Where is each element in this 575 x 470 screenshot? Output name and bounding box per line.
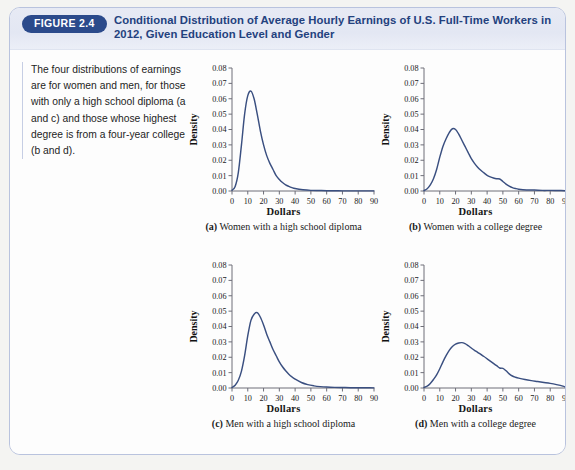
density-curve-a — [232, 91, 374, 191]
svg-text:50: 50 — [307, 197, 315, 206]
svg-text:0.08: 0.08 — [404, 64, 418, 73]
svg-text:10: 10 — [244, 394, 252, 403]
x-axis-title-d: Dollars — [378, 403, 566, 414]
svg-text:40: 40 — [483, 197, 491, 206]
svg-text:0.08: 0.08 — [212, 261, 226, 270]
panel-d: 0.000.010.020.030.040.050.060.070.080102… — [378, 253, 566, 449]
density-curve-d — [424, 343, 566, 388]
x-axis-title-b: Dollars — [378, 206, 566, 217]
svg-text:0: 0 — [422, 197, 426, 206]
panel-caption-d: (d) Men with a college degree — [378, 418, 566, 429]
density-curve-chart-b: 0.000.010.020.030.040.050.060.070.080102… — [378, 56, 566, 216]
svg-text:60: 60 — [515, 394, 523, 403]
panel-c: 0.000.010.020.030.040.050.060.070.080102… — [186, 253, 381, 449]
svg-text:0.02: 0.02 — [212, 156, 226, 165]
svg-text:50: 50 — [499, 197, 507, 206]
svg-text:0.04: 0.04 — [212, 125, 226, 134]
svg-text:0.07: 0.07 — [212, 79, 226, 88]
svg-text:0.07: 0.07 — [404, 276, 418, 285]
panel-title-d: Men with a college degree — [430, 418, 536, 429]
panel-b: 0.000.010.020.030.040.050.060.070.080102… — [378, 56, 566, 252]
svg-text:0.03: 0.03 — [404, 141, 418, 150]
svg-text:30: 30 — [467, 197, 475, 206]
y-axis-title-d: Density — [380, 310, 391, 342]
svg-text:0.05: 0.05 — [404, 110, 418, 119]
svg-text:70: 70 — [338, 197, 346, 206]
plot-b: 0.000.010.020.030.040.050.060.070.080102… — [378, 56, 566, 216]
figure-body: The four distributions of earnings are f… — [10, 50, 565, 455]
svg-text:0.01: 0.01 — [404, 369, 418, 378]
density-curve-chart-d: 0.000.010.020.030.040.050.060.070.080102… — [378, 253, 566, 413]
svg-text:70: 70 — [530, 394, 538, 403]
svg-text:0: 0 — [422, 394, 426, 403]
svg-text:40: 40 — [291, 197, 299, 206]
svg-text:0.00: 0.00 — [404, 187, 418, 196]
panel-label-b: (b) — [409, 221, 421, 232]
svg-text:70: 70 — [530, 197, 538, 206]
panel-title-a: Women with a high school diploma — [219, 221, 361, 232]
svg-text:30: 30 — [275, 197, 283, 206]
y-axis-title-c: Density — [188, 310, 199, 342]
svg-text:60: 60 — [323, 394, 331, 403]
svg-text:0.08: 0.08 — [404, 261, 418, 270]
svg-text:0.05: 0.05 — [404, 307, 418, 316]
svg-text:0.05: 0.05 — [212, 110, 226, 119]
svg-text:0.06: 0.06 — [212, 95, 226, 104]
svg-text:80: 80 — [546, 394, 554, 403]
svg-text:0.01: 0.01 — [212, 172, 226, 181]
svg-text:20: 20 — [259, 394, 267, 403]
panel-title-b: Women with a college degree — [423, 221, 542, 232]
panel-caption-c: (c) Men with a high school diploma — [186, 418, 381, 429]
svg-text:0.07: 0.07 — [404, 79, 418, 88]
svg-text:0.03: 0.03 — [404, 338, 418, 347]
svg-text:80: 80 — [354, 394, 362, 403]
svg-text:30: 30 — [275, 394, 283, 403]
svg-text:0.04: 0.04 — [404, 125, 418, 134]
svg-text:60: 60 — [515, 197, 523, 206]
plot-c: 0.000.010.020.030.040.050.060.070.080102… — [186, 253, 381, 413]
panel-label-d: (d) — [415, 418, 427, 429]
svg-text:10: 10 — [244, 197, 252, 206]
svg-text:10: 10 — [436, 197, 444, 206]
svg-text:0.02: 0.02 — [404, 156, 418, 165]
svg-text:60: 60 — [323, 197, 331, 206]
svg-text:20: 20 — [259, 197, 267, 206]
svg-text:0.06: 0.06 — [404, 95, 418, 104]
panel-caption-b: (b) Women with a college degree — [378, 221, 566, 232]
svg-text:0: 0 — [230, 197, 234, 206]
plot-d: 0.000.010.020.030.040.050.060.070.080102… — [378, 253, 566, 413]
svg-text:0.04: 0.04 — [212, 322, 226, 331]
svg-text:0.02: 0.02 — [212, 353, 226, 362]
figure-container: FIGURE 2.4 Conditional Distribution of A… — [9, 7, 566, 455]
x-axis-title-c: Dollars — [186, 403, 381, 414]
svg-text:0: 0 — [230, 394, 234, 403]
density-curve-chart-c: 0.000.010.020.030.040.050.060.070.080102… — [186, 253, 381, 413]
svg-text:0.03: 0.03 — [212, 338, 226, 347]
svg-text:0.03: 0.03 — [212, 141, 226, 150]
svg-text:50: 50 — [307, 394, 315, 403]
plot-a: 0.000.010.020.030.040.050.060.070.080102… — [186, 56, 381, 216]
svg-text:20: 20 — [451, 394, 459, 403]
svg-text:0.02: 0.02 — [404, 353, 418, 362]
svg-text:90: 90 — [562, 394, 566, 403]
svg-text:90: 90 — [562, 197, 566, 206]
panel-a: 0.000.010.020.030.040.050.060.070.080102… — [186, 56, 381, 252]
svg-text:40: 40 — [291, 394, 299, 403]
figure-caption: The four distributions of earnings are f… — [22, 62, 194, 159]
svg-text:0.06: 0.06 — [404, 292, 418, 301]
density-curve-chart-a: 0.000.010.020.030.040.050.060.070.080102… — [186, 56, 381, 216]
figure-header: FIGURE 2.4 Conditional Distribution of A… — [10, 8, 565, 50]
svg-text:0.07: 0.07 — [212, 276, 226, 285]
figure-title: Conditional Distribution of Average Hour… — [114, 13, 555, 42]
panel-title-c: Men with a high school diploma — [225, 418, 355, 429]
svg-text:70: 70 — [338, 394, 346, 403]
y-axis-title-a: Density — [188, 113, 199, 145]
svg-text:90: 90 — [370, 394, 378, 403]
panel-label-c: (c) — [212, 418, 223, 429]
y-axis-title-b: Density — [380, 113, 391, 145]
svg-text:0.06: 0.06 — [212, 292, 226, 301]
svg-text:20: 20 — [451, 197, 459, 206]
svg-text:0.05: 0.05 — [212, 307, 226, 316]
panel-caption-a: (a) Women with a high school diploma — [186, 221, 381, 232]
svg-text:0.00: 0.00 — [404, 384, 418, 393]
